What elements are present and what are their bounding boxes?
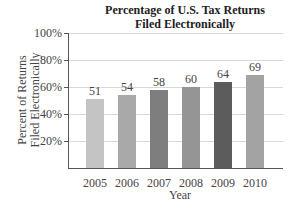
bar-value-label: 60 (176, 73, 206, 85)
bar-2009 (214, 82, 232, 168)
bar-2010 (246, 75, 264, 168)
bar-value-label: 69 (240, 61, 270, 73)
chart-title-line-2: Filed Electronically (80, 17, 290, 31)
x-axis-line (68, 168, 283, 169)
x-tick-label: 2009 (206, 177, 240, 189)
bar-value-label: 54 (112, 81, 142, 93)
bar-2007 (150, 90, 168, 168)
chart-area: Percentage of U.S. Tax Returns Filed Ele… (0, 0, 290, 202)
bar-value-label: 64 (208, 68, 238, 80)
y-tick-label: 100% (20, 27, 62, 39)
x-tick-label: 2010 (238, 177, 272, 189)
chart-title-line-1: Percentage of U.S. Tax Returns (80, 3, 290, 17)
y-axis-line (68, 33, 69, 168)
bar-2008 (182, 87, 200, 168)
bar-2006 (118, 95, 136, 168)
x-tick-label: 2006 (110, 177, 144, 189)
gridline (68, 33, 283, 34)
x-tick-label: 2005 (78, 177, 112, 189)
y-axis-label: Percent of Returns Filed Electronically (16, 40, 42, 160)
y-axis-label-line-2: Filed Electronically (29, 40, 42, 160)
bar-value-label: 58 (144, 76, 174, 88)
x-axis-label: Year (150, 189, 210, 201)
bar-2005 (86, 99, 104, 168)
bar-value-label: 51 (80, 85, 110, 97)
